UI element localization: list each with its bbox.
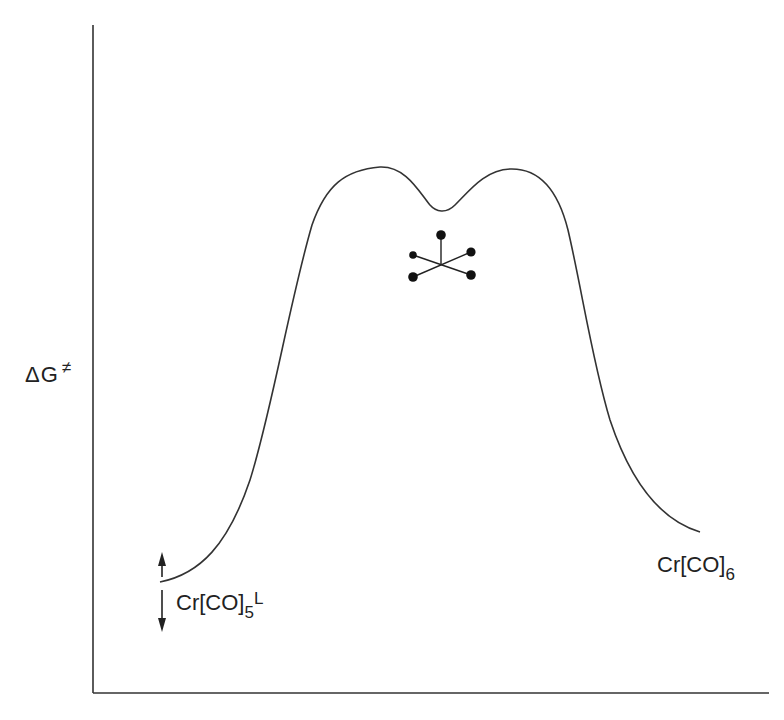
y-axis-label-superscript: ≠ [62,358,72,377]
trigonal-bipyramid-icon [408,230,476,282]
energy-diagram: ΔG≠ Cr[CO]5L Cr[CO]6 [0,0,784,720]
reactant-base: Cr[CO] [176,590,244,615]
y-axis-label-main: ΔG [25,362,59,387]
reactant-subscript: 5 [244,603,253,622]
energy-profile-plot [0,0,784,720]
product-subscript: 6 [725,565,734,584]
reactant-suffix: L [254,589,263,608]
double-arrow-icon [158,552,166,632]
reactant-label: Cr[CO]5L [176,592,263,614]
product-base: Cr[CO] [657,552,725,577]
product-label: Cr[CO]6 [657,554,735,576]
energy-curve [160,167,700,582]
y-axis-label: ΔG≠ [25,364,72,386]
